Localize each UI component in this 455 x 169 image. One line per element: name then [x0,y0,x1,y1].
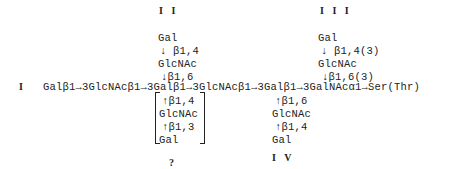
main-chain: Galβ1→3GlcNAcβ1→3Galβ1→3GlcNAcβ1→3Galβ1→… [43,81,420,93]
branch-IV-linkage-beta14: ↑β1,4 [275,121,308,133]
label-II: I I [159,5,178,16]
bracket-gal: Gal [159,134,179,146]
bracket-linkage-beta13: ↑β1,3 [162,121,195,133]
right-bracket [200,92,205,144]
branch-IV-glcnac: GlcNAc [272,108,311,120]
branch-II-glcnac: GlcNAc [158,58,197,70]
label-IV: I V [272,152,294,163]
branch-III-gal: Gal [318,32,338,44]
branch-II-gal: Gal [158,32,178,44]
label-unknown: ? [169,157,177,168]
branch-III-linkage-beta14: ↓ β1,4(3) [321,45,380,57]
label-III: I I I [320,5,352,16]
label-I: I [19,81,26,92]
bracket-linkage-beta14: ↑β1,4 [162,95,195,107]
bracket-glcnac: GlcNAc [159,108,198,120]
branch-IV-linkage-beta16: ↑β1,6 [275,95,308,107]
branch-III-glcnac: GlcNAc [318,58,357,70]
branch-II-linkage-beta14: ↓ β1,4 [160,45,199,57]
branch-IV-gal: Gal [272,134,292,146]
